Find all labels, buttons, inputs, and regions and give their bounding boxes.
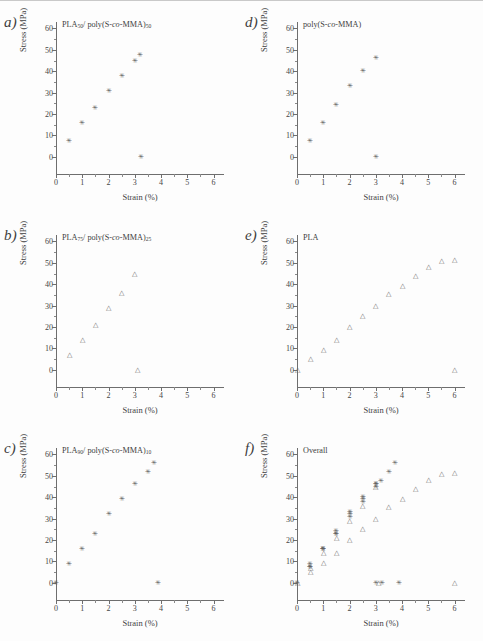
y-tick-mark (293, 540, 297, 541)
x-tick-minor (363, 174, 364, 177)
y-tick-mark (293, 348, 297, 349)
x-tick-minor (336, 387, 337, 390)
x-tick-mark (350, 387, 351, 391)
axes-frame (56, 448, 224, 600)
x-tick-label: 2 (348, 178, 352, 187)
y-tick-minor (295, 39, 298, 40)
x-tick-label: 3 (374, 391, 378, 400)
y-tick-minor (54, 252, 57, 253)
plot-area: PLA90/ poly(S-co-MMA)1001020304050600123… (56, 448, 224, 600)
x-tick-label: 6 (453, 178, 457, 187)
y-tick-mark (293, 241, 297, 242)
x-tick-minor (441, 387, 442, 390)
x-tick-label: 1 (80, 178, 84, 187)
y-tick-mark (52, 476, 56, 477)
x-tick-label: 6 (212, 604, 216, 613)
data-point: ✳ (92, 530, 98, 537)
data-point: △ (439, 257, 444, 264)
panel-f: f)Overall01020304050600123456✳✳✳✳✳✳✳✳△△△… (241, 426, 482, 639)
y-tick-minor (295, 529, 298, 530)
plot-area: PLA75/ poly(S-co-MMA)2501020304050600123… (56, 235, 224, 387)
panel-d: d)poly(S-co-MMA)01020304050600123456✳✳✳✳… (241, 0, 482, 213)
x-tick-minor (69, 174, 70, 177)
x-tick-mark (187, 387, 188, 391)
y-tick-minor (295, 103, 298, 104)
x-tick-label: 3 (374, 604, 378, 613)
data-point: △ (295, 367, 300, 374)
x-tick-minor (363, 600, 364, 603)
panel-b: b)PLA75/ poly(S-co-MMA)25010203040506001… (0, 213, 241, 426)
x-tick-label: 5 (426, 391, 430, 400)
x-tick-minor (148, 600, 149, 603)
x-tick-minor (200, 174, 201, 177)
data-point: ✳ (151, 459, 157, 466)
panel-label: c) (4, 440, 16, 457)
y-tick-mark (293, 50, 297, 51)
x-tick-minor (363, 387, 364, 390)
x-tick-minor (69, 600, 70, 603)
x-tick-mark (56, 600, 57, 604)
y-tick-mark (293, 519, 297, 520)
data-point: ✳ (373, 481, 379, 488)
x-tick-label: 0 (295, 391, 299, 400)
data-point: ✳ (138, 153, 144, 160)
x-tick-label: 3 (133, 178, 137, 187)
y-axis-line (56, 235, 57, 387)
x-tick-mark (428, 387, 429, 391)
y-tick-mark (293, 93, 297, 94)
x-tick-mark (135, 387, 136, 391)
y-tick-minor (295, 508, 298, 509)
x-tick-mark (297, 600, 298, 604)
x-tick-minor (69, 387, 70, 390)
x-tick-label: 5 (185, 178, 189, 187)
panel-title: PLA75/ poly(S-co-MMA)25 (62, 233, 151, 242)
data-point: △ (386, 291, 391, 298)
x-tick-label: 1 (80, 604, 84, 613)
x-tick-minor (95, 174, 96, 177)
y-tick-mark (52, 93, 56, 94)
y-tick-minor (54, 146, 57, 147)
x-tick-mark (376, 600, 377, 604)
y-tick-mark (293, 306, 297, 307)
x-tick-label: 4 (400, 604, 404, 613)
data-point: △ (321, 559, 326, 566)
data-point: △ (347, 324, 352, 331)
x-tick-minor (95, 387, 96, 390)
data-point: △ (360, 503, 365, 510)
x-tick-mark (56, 387, 57, 391)
x-tick-minor (310, 387, 311, 390)
y-tick-minor (54, 338, 57, 339)
data-point: ✳ (106, 511, 112, 518)
y-tick-minor (54, 508, 57, 509)
x-tick-minor (310, 174, 311, 177)
y-tick-mark (52, 454, 56, 455)
x-tick-minor (174, 387, 175, 390)
axes-frame (56, 235, 224, 387)
x-tick-mark (402, 387, 403, 391)
x-tick-mark (161, 387, 162, 391)
x-tick-label: 0 (295, 178, 299, 187)
data-point: ✳ (320, 545, 326, 552)
y-tick-mark (52, 263, 56, 264)
panel-a: a)PLA50/ poly(S-co-MMA)50010203040506001… (0, 0, 241, 213)
x-tick-minor (415, 387, 416, 390)
x-tick-label: 6 (212, 391, 216, 400)
x-tick-label: 3 (133, 604, 137, 613)
y-tick-mark (52, 497, 56, 498)
y-tick-minor (295, 295, 298, 296)
x-tick-minor (122, 174, 123, 177)
x-tick-mark (323, 174, 324, 178)
data-point: ✳ (396, 579, 402, 586)
data-point: ✳ (145, 468, 151, 475)
x-tick-mark (428, 600, 429, 604)
x-axis-label: Strain (%) (297, 405, 465, 415)
x-tick-mark (402, 600, 403, 604)
data-point: △ (439, 470, 444, 477)
data-point: △ (334, 550, 339, 557)
data-point: ✳ (79, 119, 85, 126)
data-point: △ (321, 346, 326, 353)
y-axis-line (56, 22, 57, 174)
x-tick-minor (441, 174, 442, 177)
y-tick-mark (52, 348, 56, 349)
x-tick-mark (109, 387, 110, 391)
